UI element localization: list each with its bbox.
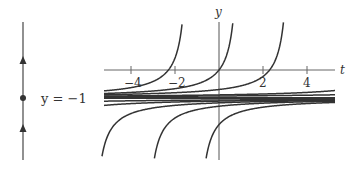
equilibrium-label: y = −1 — [40, 91, 87, 106]
solution-curve-lower — [206, 102, 335, 158]
solution-curves — [102, 22, 335, 158]
y-axis-label: y — [214, 5, 222, 19]
arrow-up-icon — [20, 56, 27, 64]
phase-line: y = −1 — [20, 22, 87, 160]
axes: −4 −2 2 4 t y — [104, 5, 345, 160]
solution-curve-lower — [154, 101, 335, 158]
arrow-up-icon — [20, 124, 27, 132]
diagram: y = −1 −4 −2 2 4 t y — [0, 0, 358, 170]
equilibrium-dot-icon — [20, 95, 26, 101]
solution-curve-lower — [102, 101, 335, 157]
x-tick-label: 4 — [303, 76, 311, 90]
x-axis-label: t — [340, 63, 345, 77]
